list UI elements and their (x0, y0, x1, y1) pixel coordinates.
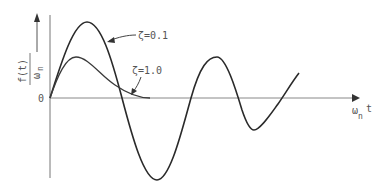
annotation-zeta-1.0: ζ=1.0 (132, 65, 162, 76)
y-label-numerator: f(t) (17, 59, 28, 83)
origin-label: 0 (38, 93, 44, 104)
x-label-t: t (366, 103, 372, 114)
y-label-arrow-icon (34, 13, 40, 22)
curve-zeta-0.1 (50, 22, 299, 180)
annotation-zeta-0.1: ζ=0.1 (138, 30, 168, 41)
damped-response-chart: f(t) ω n 0 ω n t ζ=0.1 ζ=1.0 (0, 0, 391, 190)
y-label-subscript: n (36, 66, 45, 71)
y-label-denominator: ω (31, 73, 42, 79)
annotation-arrow-icon (131, 88, 137, 95)
x-label-subscript: n (358, 112, 363, 121)
annotation-arrow-icon (107, 37, 115, 43)
x-axis-arrow-icon (352, 94, 360, 102)
y-axis-label: f(t) ω n (17, 53, 45, 85)
